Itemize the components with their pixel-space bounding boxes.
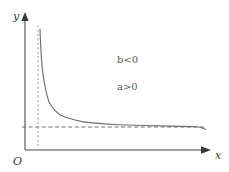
x-axis-arrowhead: [201, 146, 211, 154]
annotation-b: b<0: [117, 54, 138, 65]
annotation-a: a>0: [117, 81, 138, 92]
origin-label: O: [13, 155, 22, 168]
function-curve: [40, 29, 206, 129]
x-axis-label: x: [215, 149, 222, 162]
y-axis-arrowhead: [21, 12, 28, 21]
function-graph: y x O b<0 a>0: [0, 0, 229, 172]
figure-container: y x O b<0 a>0: [0, 0, 229, 172]
y-axis-label: y: [12, 10, 20, 23]
